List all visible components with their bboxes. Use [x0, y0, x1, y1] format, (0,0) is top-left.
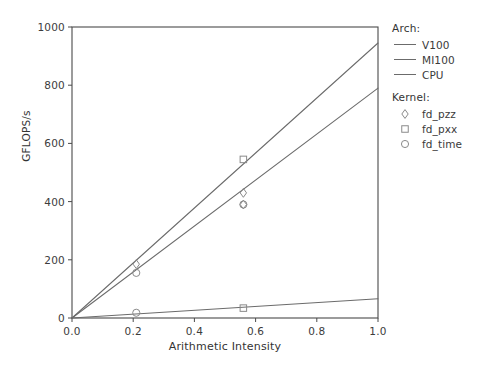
legend-line-swatch-icon	[392, 44, 418, 45]
data-markers	[133, 156, 247, 316]
x-axis-label: Arithmetic Intensity	[72, 340, 378, 353]
legend-title-arch: Arch:	[392, 22, 478, 34]
legend-item-label: CPU	[422, 69, 444, 81]
legend-item-mi100[interactable]: MI100	[392, 52, 478, 67]
x-tick-label: 0.4	[186, 325, 203, 337]
legend-item-fd_pzz[interactable]: fd_pzz	[392, 106, 478, 121]
legend-group-arch: Arch: V100MI100CPU	[392, 22, 478, 82]
legend-item-v100[interactable]: V100	[392, 37, 478, 52]
legend-item-label: fd_time	[422, 138, 462, 150]
y-tick-label: 400	[20, 196, 65, 208]
x-tick-label: 0.2	[125, 325, 142, 337]
legend-item-fd_time[interactable]: fd_time	[392, 136, 478, 151]
data-point-fd_time-CPU	[133, 309, 140, 316]
marker-glyph	[401, 140, 408, 147]
plot-border	[72, 27, 378, 318]
y-tick-label: 1000	[20, 21, 65, 33]
legend-item-label: fd_pzz	[422, 108, 456, 120]
x-tick-label: 0.0	[63, 325, 80, 337]
legend-circle-marker-icon	[392, 138, 418, 150]
data-point-fd_time-V100	[133, 269, 140, 276]
marker-glyph	[402, 125, 409, 132]
legend-line-swatch-icon	[392, 59, 418, 60]
legend-item-label: fd_pxx	[422, 123, 457, 135]
chart-legend: Arch: V100MI100CPU Kernel: fd_pzzfd_pxxf…	[392, 22, 478, 160]
legend-title-kernel: Kernel:	[392, 91, 478, 103]
legend-item-label: V100	[422, 39, 450, 51]
y-tick-label: 200	[20, 254, 65, 266]
series-lines	[72, 43, 378, 318]
x-tick-label: 0.8	[308, 325, 325, 337]
data-point-fd_time-MI100	[240, 201, 247, 208]
y-axis-label: GFLOPS/s	[20, 91, 32, 181]
legend-square-marker-icon	[392, 123, 418, 135]
legend-item-cpu[interactable]: CPU	[392, 67, 478, 82]
legend-item-label: MI100	[422, 54, 455, 66]
legend-arch-rows: V100MI100CPU	[392, 37, 478, 82]
y-tick-label: 800	[20, 79, 65, 91]
legend-item-fd_pxx[interactable]: fd_pxx	[392, 121, 478, 136]
marker-glyph	[402, 109, 408, 118]
axes-frame	[72, 27, 378, 318]
series-line-mi100	[72, 88, 378, 318]
y-tick-label: 0	[20, 312, 65, 324]
data-point-fd_pxx-CPU	[240, 305, 247, 312]
chart-figure: 02004006008001000 0.00.20.40.60.81.0 Ari…	[0, 0, 481, 370]
legend-line-swatch-icon	[392, 74, 418, 75]
legend-kernel-rows: fd_pzzfd_pxxfd_time	[392, 106, 478, 151]
series-line-cpu	[72, 299, 378, 318]
x-tick-label: 0.6	[247, 325, 264, 337]
tick-marks	[68, 27, 378, 322]
series-line-v100	[72, 43, 378, 318]
data-point-fd_pzz-V100	[133, 260, 139, 269]
x-tick-label: 1.0	[369, 325, 386, 337]
legend-group-kernel: Kernel: fd_pzzfd_pxxfd_time	[392, 91, 478, 151]
legend-diamond-marker-icon	[392, 108, 418, 120]
